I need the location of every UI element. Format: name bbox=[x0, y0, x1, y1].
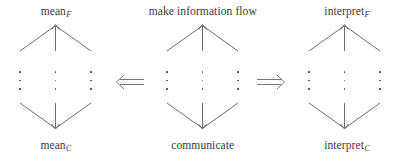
group-mif-vdots-right bbox=[237, 71, 240, 90]
group-mean-vdots-right bbox=[90, 71, 93, 90]
group-mean-top-branch-left bbox=[20, 26, 55, 51]
group-interpret-vdots-center bbox=[343, 71, 346, 90]
group-mif-bottom-label: communicate bbox=[140, 139, 266, 155]
group-interpret-vdots-right bbox=[379, 71, 382, 90]
group-mif-bottom-branch-left bbox=[167, 103, 202, 128]
group-interpret-top-branch-right bbox=[345, 26, 380, 51]
group-interpret-vdots-left bbox=[308, 71, 311, 90]
group-mean-bottom-branch-left bbox=[20, 103, 55, 128]
group-mean-vdots-left bbox=[19, 71, 22, 90]
group-interpret-bottom-label-sub: C bbox=[364, 144, 370, 153]
group-mean-bottom-label: meanC bbox=[0, 139, 112, 155]
diagram-canvas: meanF meanC bbox=[0, 0, 402, 162]
group-mean-bottom-label-base: mean bbox=[40, 139, 65, 151]
group-mif-bottom-label-base: communicate bbox=[171, 139, 234, 151]
group-interpret-bottom-label: interpretC bbox=[292, 139, 402, 155]
group-mean-bottom-label-sub: C bbox=[66, 144, 72, 153]
group-interpret-bottom-label-base: interpret bbox=[324, 139, 364, 151]
group-mean-top-branch-right bbox=[56, 26, 91, 51]
diagram-group-mean: meanF meanC bbox=[0, 0, 112, 162]
group-mean-bottom-branch-right bbox=[56, 103, 91, 128]
diagram-group-make-information-flow: make information flow communicate bbox=[140, 0, 266, 162]
group-mif-top-branch-right bbox=[203, 26, 238, 51]
right-implication-arrow-icon bbox=[255, 73, 289, 91]
group-mif-bottom-branch-right bbox=[203, 103, 238, 128]
diagram-group-interpret: interpretF interpretC bbox=[292, 0, 402, 162]
group-interpret-bottom-branch-left bbox=[309, 103, 344, 128]
group-interpret-bottom-branch-right bbox=[345, 103, 380, 128]
group-mif-vdots-left bbox=[166, 71, 169, 90]
group-mif-vdots-center bbox=[201, 71, 204, 90]
group-mean-vdots-center bbox=[54, 71, 57, 90]
group-mif-top-branch-left bbox=[167, 26, 202, 51]
group-interpret-top-branch-left bbox=[309, 26, 344, 51]
